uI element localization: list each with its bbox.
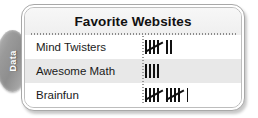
- table-rows-area: Mind Twisters: [25, 35, 241, 107]
- tally-group-remainder: [166, 40, 172, 54]
- table-row[interactable]: Awesome Math: [25, 59, 241, 83]
- column-dotted-divider: [142, 35, 144, 105]
- table-row[interactable]: Mind Twisters: [25, 35, 241, 59]
- data-side-tab-label: Data: [8, 50, 18, 71]
- tally-group-remainder: [187, 88, 189, 102]
- tally-group-of-five: [145, 88, 159, 102]
- row-label: Mind Twisters: [25, 41, 133, 53]
- tally-group-remainder: [145, 64, 159, 78]
- row-label: Awesome Math: [25, 65, 133, 77]
- table-title: Favorite Websites: [75, 14, 192, 29]
- tally-group-of-five: [166, 88, 180, 102]
- row-tally-marks: [133, 40, 241, 54]
- row-tally-marks: [133, 64, 241, 78]
- table-row[interactable]: Brainfun: [25, 83, 241, 107]
- favorite-websites-table-frame: Favorite Websites Mind Twisters: [21, 4, 245, 111]
- row-label: Brainfun: [25, 89, 133, 101]
- row-tally-marks: [133, 88, 241, 102]
- table-header: Favorite Websites: [25, 8, 241, 35]
- tally-group-of-five: [145, 40, 159, 54]
- table-inner-border: Favorite Websites Mind Twisters: [24, 7, 242, 108]
